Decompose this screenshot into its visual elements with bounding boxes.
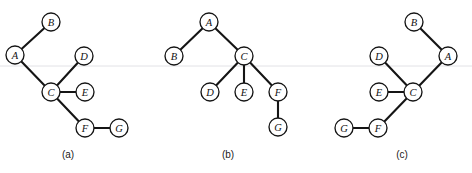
node-label: G	[340, 123, 348, 134]
node-label: A	[11, 50, 19, 61]
node-label: C	[240, 51, 248, 62]
node-label: B	[171, 51, 178, 62]
graph-node-g[interactable]: G	[335, 119, 353, 137]
graph-node-f[interactable]: F	[369, 119, 387, 137]
node-label: C	[409, 87, 417, 98]
caption-layer: (a)(b)(c)	[62, 149, 408, 160]
graph-node-a[interactable]: A	[200, 13, 218, 31]
node-label: B	[48, 17, 55, 28]
node-label: C	[47, 87, 55, 98]
graph-edge-a-c	[21, 61, 45, 86]
graph-node-b[interactable]: B	[405, 13, 423, 31]
graph-node-f[interactable]: F	[269, 83, 287, 101]
panel-caption: (a)	[62, 149, 74, 160]
node-label: B	[411, 17, 418, 28]
node-label: F	[374, 123, 382, 134]
node-label: G	[274, 122, 282, 133]
node-label: E	[240, 87, 248, 98]
node-label: G	[115, 123, 123, 134]
node-label: A	[205, 17, 213, 28]
node-label: E	[81, 87, 89, 98]
graph-node-e[interactable]: E	[76, 83, 94, 101]
graph-edge-c-f	[384, 98, 407, 122]
graph-node-c[interactable]: C	[235, 47, 253, 65]
graph-node-e[interactable]: E	[370, 83, 388, 101]
figure-page: ABCDEFGABCDEFGABCDEFG (a)(b)(c)	[0, 0, 472, 173]
graph-edge-a-c	[215, 28, 238, 50]
node-label: E	[375, 87, 383, 98]
node-label: A	[444, 51, 452, 62]
graph-node-f[interactable]: F	[76, 119, 94, 137]
node-label: D	[374, 51, 383, 62]
graph-node-b[interactable]: B	[42, 13, 60, 31]
graph-node-g[interactable]: G	[110, 119, 128, 137]
graph-node-d[interactable]: D	[75, 47, 93, 65]
graph-node-c[interactable]: C	[404, 83, 422, 101]
panel-caption: (b)	[222, 149, 234, 160]
node-label: D	[79, 51, 88, 62]
graph-edge-a-b	[420, 28, 442, 50]
graph-edge-c-f	[57, 98, 79, 122]
graph-edge-a-b	[180, 28, 203, 50]
panel-caption: (c)	[396, 149, 408, 160]
node-label: D	[205, 87, 214, 98]
node-label: F	[81, 123, 89, 134]
graph-node-e[interactable]: E	[235, 83, 253, 101]
node-layer: ABCDEFGABCDEFGABCDEFG	[6, 13, 457, 137]
node-label: F	[274, 87, 282, 98]
graph-node-a[interactable]: A	[439, 47, 457, 65]
graph-node-b[interactable]: B	[165, 47, 183, 65]
graph-node-d[interactable]: D	[370, 47, 388, 65]
graph-node-d[interactable]: D	[201, 83, 219, 101]
tree-diagram-figure: ABCDEFGABCDEFGABCDEFG (a)(b)(c)	[0, 0, 472, 173]
graph-node-g[interactable]: G	[269, 118, 287, 136]
graph-node-a[interactable]: A	[6, 46, 24, 64]
graph-edge-a-b	[21, 28, 44, 50]
graph-node-c[interactable]: C	[42, 83, 60, 101]
edge-layer	[21, 28, 442, 128]
